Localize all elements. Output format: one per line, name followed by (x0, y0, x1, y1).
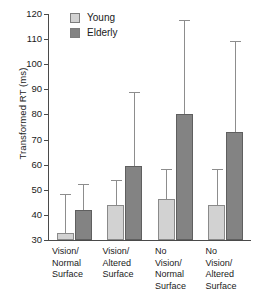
legend-item-young: Young (70, 12, 118, 23)
legend-label: Young (87, 12, 115, 23)
x-axis-group-label: No Vision/ Normal Surface (155, 246, 202, 292)
y-tick-label: 40 (31, 209, 42, 220)
error-bar-cap (212, 169, 223, 170)
y-tick: 90 (0, 89, 48, 90)
y-tick-mark (44, 240, 48, 241)
y-tick-label: 60 (31, 159, 42, 170)
error-bar-cap (230, 41, 241, 42)
bar-elderly-3 (176, 114, 193, 240)
bar-young-3 (158, 199, 175, 240)
y-tick: 80 (0, 114, 48, 115)
error-bar-cap (78, 184, 89, 185)
legend-swatch-elderly-icon (70, 28, 80, 38)
x-axis-line (48, 240, 251, 241)
y-tick: 60 (0, 165, 48, 166)
y-tick: 30 (0, 240, 48, 241)
y-tick: 40 (0, 215, 48, 216)
error-bar-stem (65, 194, 66, 233)
x-axis-group-label: Vision/ Altered Surface (103, 246, 150, 281)
bar-chart: Transformed RT (ms) 30405060708090100110… (0, 0, 257, 299)
error-bar-cap (161, 169, 172, 170)
error-bar-cap (179, 20, 190, 21)
y-tick: 50 (0, 190, 48, 191)
error-bar-cap (60, 194, 71, 195)
bar-elderly-1 (75, 210, 92, 240)
bar-young-4 (208, 205, 225, 240)
error-bar-stem (116, 180, 117, 205)
plot-area (48, 14, 250, 240)
error-bar-stem (235, 41, 236, 132)
y-tick-label: 70 (31, 134, 42, 145)
legend-label: Elderly (87, 27, 118, 38)
legend-item-elderly: Elderly (70, 27, 118, 38)
bar-elderly-2 (125, 166, 142, 240)
error-bar-stem (166, 169, 167, 199)
y-tick: 120 (0, 14, 48, 15)
bar-young-1 (57, 233, 74, 240)
error-bar-cap (111, 180, 122, 181)
y-tick-label: 80 (31, 108, 42, 119)
error-bar-stem (83, 184, 84, 210)
y-tick: 70 (0, 140, 48, 141)
x-axis-group-label: Vision/ Normal Surface (52, 246, 99, 281)
chart-legend: YoungElderly (70, 12, 118, 42)
bar-young-2 (107, 205, 124, 240)
legend-swatch-young-icon (70, 13, 80, 23)
y-tick-label: 120 (26, 8, 42, 19)
y-tick-label: 90 (31, 83, 42, 94)
y-tick: 100 (0, 64, 48, 65)
error-bar-stem (184, 20, 185, 115)
error-bar-stem (217, 169, 218, 205)
y-tick-label: 110 (27, 33, 42, 44)
error-bar-cap (129, 92, 140, 93)
y-tick-label: 30 (31, 234, 42, 245)
x-axis-labels: Vision/ Normal SurfaceVision/ Altered Su… (48, 246, 251, 299)
y-tick-label: 100 (26, 58, 42, 69)
x-axis-group-label: No Vision/ Altered Surface (206, 246, 253, 292)
y-tick-label: 50 (31, 184, 42, 195)
y-tick: 110 (0, 39, 48, 40)
error-bar-stem (134, 92, 135, 166)
bar-elderly-4 (226, 132, 243, 240)
